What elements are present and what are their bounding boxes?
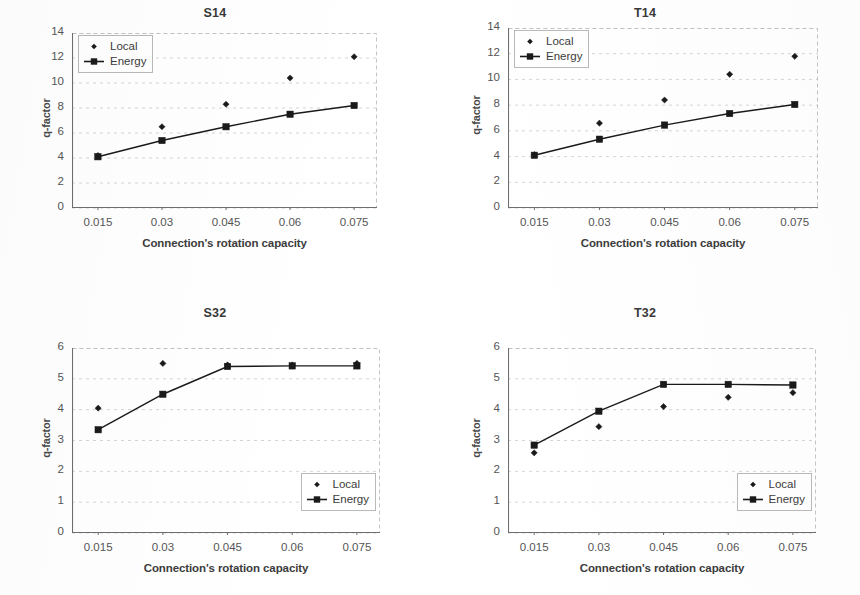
x-tick-label: 0.075 (329, 216, 379, 228)
data-point-local (792, 53, 798, 59)
y-tick-label: 10 (38, 75, 64, 87)
plot-area-t32: 01234560.0150.030.0450.060.075Connection… (508, 348, 816, 533)
x-tick-label: 0.06 (265, 216, 315, 228)
y-tick-label: 10 (474, 71, 500, 83)
x-tick-label: 0.045 (201, 216, 251, 228)
data-point-local (160, 360, 166, 366)
line-marker-icon (306, 494, 328, 505)
data-point-local (596, 120, 602, 126)
data-point-local (223, 101, 229, 107)
x-tick-label: 0.075 (768, 541, 818, 553)
y-axis-title: q-factor (40, 408, 52, 468)
y-axis-title: q-factor (40, 88, 52, 148)
y-tick-label: 2 (474, 174, 500, 186)
y-tick-label: 0 (38, 200, 64, 212)
data-point-energy (287, 111, 293, 117)
x-tick-label: 0.03 (574, 216, 624, 228)
data-point-local (790, 390, 796, 396)
legend-label: Local (110, 39, 138, 53)
y-tick-label: 12 (474, 46, 500, 58)
legend-item-local[interactable]: Local (306, 477, 369, 492)
y-axis-title: q-factor (470, 408, 482, 468)
series-line-energy (534, 105, 794, 156)
x-tick-label: 0.015 (509, 216, 559, 228)
data-point-energy (289, 363, 295, 369)
legend-item-energy[interactable]: Energy (742, 492, 805, 507)
legend-label: Energy (110, 54, 146, 68)
y-tick-label: 4 (38, 150, 64, 162)
data-point-energy (531, 152, 537, 158)
y-tick-label: 2 (38, 175, 64, 187)
line-marker-icon (519, 51, 541, 62)
data-point-energy (224, 363, 230, 369)
data-point-local (660, 403, 666, 409)
x-tick-label: 0.03 (137, 216, 187, 228)
y-tick-label: 6 (38, 340, 64, 352)
chart-panel-s14: S14 024681012140.0150.030.0450.060.075Co… (0, 0, 430, 300)
data-point-energy (726, 110, 732, 116)
legend-s32[interactable]: LocalEnergy (301, 473, 376, 511)
legend-item-energy[interactable]: Energy (519, 49, 582, 64)
y-tick-label: 14 (474, 20, 500, 32)
legend-item-local[interactable]: Local (742, 477, 805, 492)
diamond-marker-icon (519, 36, 541, 47)
data-point-local (661, 97, 667, 103)
legend-item-energy[interactable]: Energy (83, 54, 146, 69)
x-axis-title: Connection's rotation capacity (488, 562, 836, 574)
x-tick-label: 0.015 (73, 216, 123, 228)
chart-panel-s32: S32 01234560.0150.030.0450.060.075Connec… (0, 300, 430, 595)
data-point-local (351, 54, 357, 60)
legend-label: Local (546, 34, 574, 48)
data-point-energy (596, 408, 602, 414)
line-marker-icon (742, 494, 764, 505)
legend-t14[interactable]: LocalEnergy (514, 30, 589, 68)
series-line-energy (534, 384, 793, 445)
legend-label: Energy (769, 492, 805, 506)
data-point-energy (792, 101, 798, 107)
diamond-marker-icon (742, 479, 764, 490)
data-point-local (727, 71, 733, 77)
data-point-energy (725, 381, 731, 387)
plot-area-s32: 01234560.0150.030.0450.060.075Connection… (72, 348, 380, 533)
data-point-energy (531, 442, 537, 448)
data-point-energy (661, 122, 667, 128)
data-point-local (159, 124, 165, 130)
data-point-local (287, 75, 293, 81)
y-tick-label: 6 (474, 340, 500, 352)
x-tick-label: 0.03 (138, 541, 188, 553)
y-tick-label: 5 (474, 371, 500, 383)
x-tick-label: 0.015 (73, 541, 123, 553)
y-tick-label: 1 (38, 494, 64, 506)
legend-item-local[interactable]: Local (83, 39, 146, 54)
x-tick-label: 0.075 (770, 216, 820, 228)
data-point-energy (596, 136, 602, 142)
legend-item-local[interactable]: Local (519, 34, 582, 49)
data-point-energy (351, 102, 357, 108)
legend-label: Local (769, 477, 797, 491)
legend-label: Energy (333, 492, 369, 506)
x-tick-label: 0.06 (267, 541, 317, 553)
y-axis-title: q-factor (470, 85, 482, 145)
y-tick-label: 1 (474, 494, 500, 506)
data-point-energy (223, 124, 229, 130)
legend-item-energy[interactable]: Energy (306, 492, 369, 507)
data-point-energy (95, 154, 101, 160)
data-point-energy (159, 137, 165, 143)
y-tick-label: 5 (38, 371, 64, 383)
data-point-energy (95, 427, 101, 433)
data-point-local (531, 450, 537, 456)
data-point-energy (790, 382, 796, 388)
legend-label: Energy (546, 49, 582, 63)
x-tick-label: 0.06 (705, 216, 755, 228)
x-axis-title: Connection's rotation capacity (52, 237, 397, 249)
x-tick-label: 0.06 (703, 541, 753, 553)
y-tick-label: 4 (474, 149, 500, 161)
legend-t32[interactable]: LocalEnergy (737, 473, 812, 511)
diamond-marker-icon (306, 479, 328, 490)
chart-panel-t32: T32 01234560.0150.030.0450.060.075Connec… (430, 300, 860, 595)
x-tick-label: 0.03 (574, 541, 624, 553)
data-point-local (596, 424, 602, 430)
data-point-energy (660, 381, 666, 387)
y-tick-label: 0 (474, 525, 500, 537)
legend-s14[interactable]: LocalEnergy (78, 35, 153, 73)
